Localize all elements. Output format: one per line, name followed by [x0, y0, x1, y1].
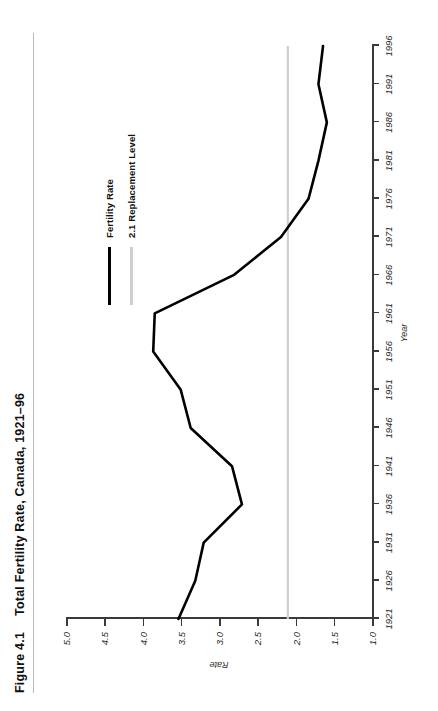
y-tick-label: 3.0: [214, 632, 225, 645]
y-tick: [296, 619, 298, 626]
legend-label-replacement-level: 2.1 Replacement Level: [126, 134, 137, 238]
x-tick: [372, 579, 379, 581]
x-tick-label: 1941: [383, 456, 394, 477]
title-divider: [33, 33, 34, 693]
x-tick: [372, 388, 379, 390]
x-tick-label: 1936: [383, 494, 394, 515]
y-tick-label: 5.0: [61, 632, 72, 645]
x-tick-label: 1971: [383, 226, 394, 247]
y-tick-label: 4.5: [99, 632, 110, 645]
y-tick: [334, 619, 336, 626]
y-tick: [372, 619, 374, 626]
rotated-page-canvas: Figure 4.1Total Fertility Rate, Canada, …: [0, 0, 438, 711]
y-tick: [104, 619, 106, 626]
x-tick-label: 1996: [383, 35, 394, 56]
x-tick: [372, 312, 379, 314]
x-tick-label: 1966: [383, 265, 394, 286]
x-axis-line: [372, 46, 374, 619]
y-tick: [143, 619, 145, 626]
y-tick: [181, 619, 183, 626]
y-tick-label: 1.5: [328, 632, 339, 645]
figure-number: Figure 4.1: [13, 632, 27, 693]
x-tick-label: 1946: [383, 417, 394, 438]
y-tick-label: 2.5: [252, 632, 263, 645]
y-tick-label: 1.0: [367, 632, 378, 645]
fertility-rate-line: [153, 46, 327, 619]
x-tick-label: 1921: [383, 608, 394, 629]
x-tick-label: 1931: [383, 532, 394, 553]
x-tick: [372, 83, 379, 85]
y-tick: [219, 619, 221, 626]
x-tick: [372, 236, 379, 238]
x-tick-label: 1991: [383, 74, 394, 95]
legend-label-fertility-rate: Fertility Rate: [104, 179, 115, 238]
chart-legend: Fertility Rate 2.1 Replacement Level: [100, 105, 144, 305]
x-tick: [372, 159, 379, 161]
x-tick: [372, 121, 379, 123]
legend-swatch-fertility-rate: [108, 247, 111, 305]
x-tick: [372, 465, 379, 467]
legend-item-replacement-level: 2.1 Replacement Level: [122, 105, 144, 305]
x-tick-label: 1976: [383, 188, 394, 209]
y-axis-label: Rate: [209, 660, 228, 670]
y-tick: [257, 619, 259, 626]
legend-swatch-replacement-level: [130, 247, 133, 305]
x-tick: [372, 541, 379, 543]
x-tick: [372, 503, 379, 505]
x-axis-label: Year: [399, 324, 409, 343]
y-tick-label: 4.0: [137, 632, 148, 645]
legend-item-fertility-rate: Fertility Rate: [100, 105, 122, 305]
x-tick: [372, 45, 379, 47]
x-tick: [372, 274, 379, 276]
x-tick-label: 1951: [383, 379, 394, 400]
x-tick: [372, 197, 379, 199]
x-tick-label: 1956: [383, 341, 394, 362]
figure-title-text: Total Fertility Rate, Canada, 1921–96: [13, 393, 27, 616]
x-tick: [372, 427, 379, 429]
x-tick-label: 1981: [383, 150, 394, 171]
figure-container: Figure 4.1Total Fertility Rate, Canada, …: [0, 0, 438, 711]
x-tick: [372, 350, 379, 352]
x-tick-label: 1926: [383, 570, 394, 591]
y-tick-label: 2.0: [290, 632, 301, 645]
x-tick-label: 1986: [383, 112, 394, 133]
y-tick-label: 3.5: [175, 632, 186, 645]
x-tick-label: 1961: [383, 303, 394, 324]
y-tick: [66, 619, 68, 626]
